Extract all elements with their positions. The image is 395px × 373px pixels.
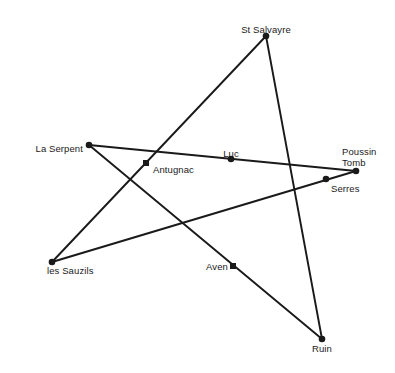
alignment-lines-group	[52, 36, 356, 339]
site-marker-serres[interactable]	[323, 176, 330, 183]
site-label-luc: Luc	[171, 149, 291, 160]
alignment-diagram: St SalvayreLa SerpentAntugnacLucPoussin …	[0, 0, 395, 373]
site-marker-ruin[interactable]	[319, 336, 326, 343]
alignment-line-la-serpent-to-ruin	[89, 145, 322, 339]
site-label-st-salvayre: St Salvayre	[206, 25, 326, 36]
site-label-la-serpent: La Serpent	[0, 144, 83, 155]
alignment-line-les-sauzils-to-poussin-tomb	[52, 171, 356, 262]
site-marker-la-serpent[interactable]	[86, 142, 93, 149]
site-marker-antugnac[interactable]	[143, 160, 149, 166]
site-marker-aven[interactable]	[230, 263, 236, 269]
site-label-antugnac: Antugnac	[153, 165, 194, 176]
alignment-line-st-salvayre-to-ruin	[266, 36, 322, 339]
site-label-poussin-tomb: Poussin Tomb	[342, 147, 377, 168]
site-label-aven: Aven	[0, 262, 228, 273]
site-markers-group	[49, 33, 360, 343]
site-label-serres: Serres	[331, 184, 360, 195]
site-marker-poussin-tomb[interactable]	[353, 168, 360, 175]
site-label-ruin: Ruin	[262, 344, 382, 355]
